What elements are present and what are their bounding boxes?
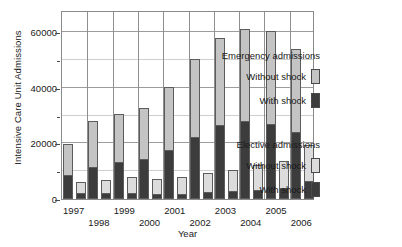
bar-segment-without-shock xyxy=(77,183,85,194)
y-tick-mark xyxy=(55,144,60,145)
bar-group xyxy=(62,144,87,199)
bar-emergency xyxy=(139,108,149,199)
bar-elective xyxy=(177,177,187,199)
bar-segment-without-shock xyxy=(140,109,148,159)
bar-elective xyxy=(76,182,86,200)
y-tick-mark xyxy=(55,200,60,201)
bar-segment-with-shock xyxy=(89,167,97,198)
legend-swatch xyxy=(311,182,320,197)
chart-figure: Intensive Care Unit Admissions 020000400… xyxy=(0,0,402,247)
x-tick-label: 2003 xyxy=(202,205,248,216)
legend-item-label: Without shock xyxy=(246,160,306,171)
y-tick-mark xyxy=(55,33,60,34)
x-axis-title: Year xyxy=(61,228,314,239)
legend-item: With shock xyxy=(260,93,320,108)
bar-group xyxy=(113,114,138,199)
x-tick-label: 2004 xyxy=(228,217,274,228)
bar-group xyxy=(189,59,214,199)
y-tick-mark-minor xyxy=(57,117,60,118)
bar-segment-without-shock xyxy=(191,60,199,137)
legend-item-label: Without shock xyxy=(246,71,306,82)
x-tick-label: 1998 xyxy=(76,217,122,228)
x-tick-label: 2000 xyxy=(127,217,173,228)
legend-group-title: Elective admissions xyxy=(237,139,320,150)
legend-group-title: Emergency admissions xyxy=(222,50,320,61)
bar-emergency xyxy=(63,144,73,199)
y-tick-label: 0 xyxy=(0,195,57,205)
legend-swatch xyxy=(311,158,320,173)
bar-emergency xyxy=(114,114,124,199)
bar-segment-with-shock xyxy=(153,194,161,198)
legend-item: Without shock xyxy=(246,69,320,84)
bar-segment-without-shock xyxy=(292,50,300,132)
bar-segment-without-shock xyxy=(153,180,161,194)
y-axis-title: Intensive Care Unit Admissions xyxy=(12,18,23,178)
bar-emergency xyxy=(215,38,225,199)
bar-group xyxy=(87,121,112,199)
bar-segment-without-shock xyxy=(165,88,173,150)
legend-swatch xyxy=(311,69,320,84)
bar-segment-with-shock xyxy=(140,159,148,198)
bar-segment-with-shock xyxy=(229,191,237,198)
bar-segment-without-shock xyxy=(178,178,186,194)
bar-segment-with-shock xyxy=(204,192,212,198)
bar-elective xyxy=(203,173,213,199)
bar-segment-without-shock xyxy=(89,122,97,167)
bar-segment-with-shock xyxy=(165,150,173,198)
bar-elective xyxy=(127,177,137,199)
bar-segment-with-shock xyxy=(64,175,72,198)
bar-segment-with-shock xyxy=(216,125,224,198)
bar-segment-without-shock xyxy=(64,145,72,176)
x-tick-label: 2006 xyxy=(278,217,324,228)
legend-item: Without shock xyxy=(246,158,320,173)
bar-group xyxy=(138,108,163,199)
bar-elective xyxy=(101,180,111,199)
x-tick-label: 2005 xyxy=(253,205,299,216)
bar-segment-with-shock xyxy=(128,193,136,198)
x-tick-label: 1997 xyxy=(51,205,97,216)
legend-item-label: With shock xyxy=(260,95,306,106)
bar-segment-with-shock xyxy=(115,162,123,198)
bar-segment-with-shock xyxy=(178,194,186,198)
bar-segment-with-shock xyxy=(191,137,199,198)
bar-segment-without-shock xyxy=(204,174,212,192)
x-tick-label: 2001 xyxy=(152,205,198,216)
y-tick-label: 20000 xyxy=(0,139,57,149)
y-tick-mark xyxy=(55,89,60,90)
bar-segment-without-shock xyxy=(115,115,123,162)
y-tick-label: 60000 xyxy=(0,28,57,38)
legend-swatch xyxy=(311,93,320,108)
bar-emergency xyxy=(190,59,200,199)
bar-group xyxy=(214,38,239,199)
bar-emergency xyxy=(88,121,98,199)
bar-segment-without-shock xyxy=(128,178,136,193)
bar-segment-with-shock xyxy=(77,193,85,198)
x-tick-label: 1999 xyxy=(101,205,147,216)
legend-item-label: With shock xyxy=(260,184,306,195)
bar-segment-without-shock xyxy=(102,181,110,194)
bar-elective xyxy=(152,179,162,199)
x-tick-label: 2002 xyxy=(177,217,223,228)
bar-segment-with-shock xyxy=(102,193,110,198)
bar-group xyxy=(163,87,188,199)
y-tick-mark-minor xyxy=(57,61,60,62)
bar-elective xyxy=(228,170,238,199)
legend-item: With shock xyxy=(260,182,320,197)
y-tick-label: 40000 xyxy=(0,84,57,94)
bar-emergency xyxy=(164,87,174,199)
bar-segment-without-shock xyxy=(229,171,237,191)
y-tick-mark-minor xyxy=(57,172,60,173)
